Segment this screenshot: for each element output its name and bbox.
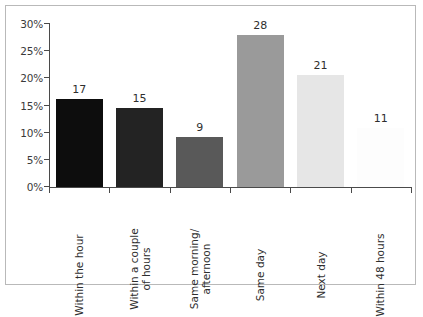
y-axis-tick-label: 25%	[6, 45, 49, 57]
x-axis-tick-mark	[230, 187, 231, 193]
y-axis-tick-label: 0%	[6, 181, 49, 193]
y-axis-tick-label: 20%	[6, 72, 49, 84]
y-axis-tick-text: 5%	[27, 154, 49, 166]
bar	[297, 75, 344, 187]
bar-value-label: 9	[170, 121, 230, 134]
y-axis-tick-text: 0%	[27, 181, 49, 193]
bar-value-label: 21	[291, 59, 351, 72]
y-axis-tick-mark	[44, 132, 50, 133]
y-axis-line	[49, 24, 50, 187]
y-axis-tick-text: 25%	[20, 45, 49, 57]
bar-value-label: 28	[230, 19, 290, 32]
x-axis-category-label-line: Next day	[315, 251, 327, 298]
x-axis-tick-mark	[170, 187, 171, 193]
bar	[116, 108, 163, 187]
y-axis-tick-mark	[44, 23, 50, 24]
bar-value-label: 11	[351, 112, 411, 125]
x-axis-category-label: Within 48 hours	[338, 195, 423, 281]
y-axis-tick-label: 10%	[6, 127, 49, 139]
y-axis-tick-text: 20%	[20, 72, 49, 84]
x-axis-category-label-line: Within a couple	[127, 228, 139, 309]
x-axis-category-label-text: Same morning/afternoon	[188, 229, 212, 309]
y-axis-tick-label: 30%	[6, 18, 49, 30]
chart-figure: 0%5%10%15%20%25%30% 17159282111 Within t…	[5, 5, 416, 285]
x-axis-category-label-line: of hours	[139, 228, 151, 309]
y-axis-tick-mark	[44, 159, 50, 160]
x-axis-category-label-text: Within 48 hours	[375, 234, 387, 317]
x-axis-category-label-text: Within a coupleof hours	[127, 228, 151, 309]
x-axis-category-label-text: Within the hour	[73, 234, 85, 315]
x-axis-category-label-line: Same day	[254, 249, 266, 301]
y-axis-tick-text: 30%	[20, 18, 49, 30]
x-axis-category-label-text: Same day	[254, 249, 266, 301]
chart-plot-area: 0%5%10%15%20%25%30% 17159282111 Within t…	[6, 6, 415, 284]
x-axis-category-label-line: Within the hour	[73, 234, 85, 315]
x-axis-tick-mark	[109, 187, 110, 193]
x-axis-category-label-line: Within 48 hours	[375, 234, 387, 317]
x-axis-tick-mark	[411, 187, 412, 193]
x-axis-tick-mark	[49, 187, 50, 193]
y-axis-tick-label: 5%	[6, 154, 49, 166]
bar-value-label: 17	[49, 83, 109, 96]
x-axis-category-label-text: Next day	[315, 251, 327, 298]
x-axis-category-label-line: afternoon	[200, 229, 212, 309]
x-axis-tick-mark	[290, 187, 291, 193]
y-axis-tick-label: 15%	[6, 100, 49, 112]
x-axis-category-label-line: Same morning/	[188, 229, 200, 309]
y-axis-tick-text: 10%	[20, 127, 49, 139]
bar	[56, 99, 103, 187]
y-axis-tick-mark	[44, 77, 50, 78]
bar	[237, 35, 284, 187]
bar	[176, 137, 223, 187]
y-axis-tick-text: 15%	[20, 100, 49, 112]
bar	[357, 128, 404, 187]
y-axis-tick-mark	[44, 50, 50, 51]
x-axis-tick-mark	[351, 187, 352, 193]
y-axis-tick-mark	[44, 105, 50, 106]
bar-value-label: 15	[110, 92, 170, 105]
